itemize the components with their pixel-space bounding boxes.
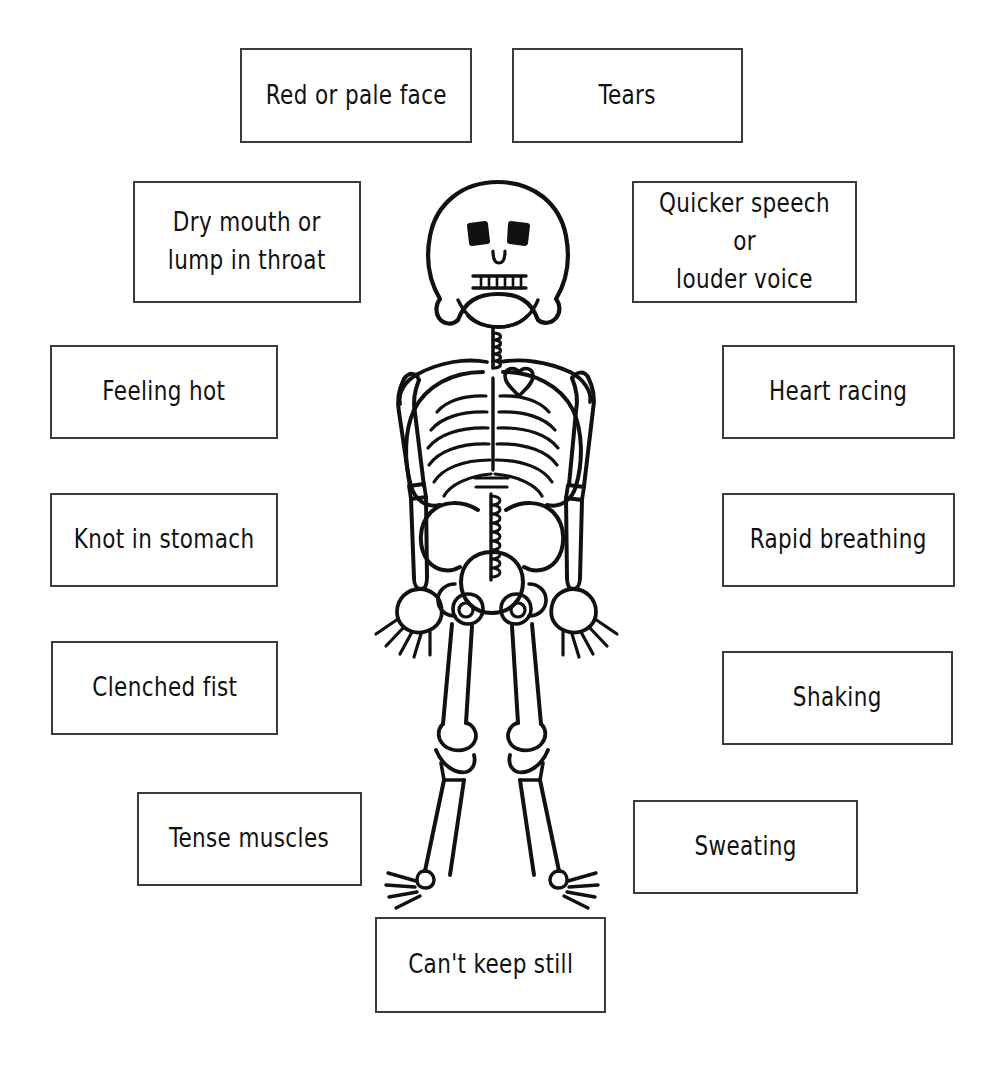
label-text-feeling-hot: Feeling hot xyxy=(95,373,233,411)
label-text-knot-in-stomach: Knot in stomach xyxy=(66,521,261,559)
patella-left xyxy=(436,750,475,772)
tibia-fibula-top-left xyxy=(441,763,464,780)
foot-left-toes xyxy=(386,873,420,908)
skull-right-eye xyxy=(510,224,527,243)
clavicle-right xyxy=(500,360,570,372)
rib-right-4 xyxy=(497,444,557,465)
label-box-red-or-pale-face[interactable]: Red or pale face xyxy=(240,48,472,143)
shoulder-girdle xyxy=(400,360,591,404)
tibia-fibula-top-right xyxy=(520,763,543,780)
label-box-tense-muscles[interactable]: Tense muscles xyxy=(137,792,362,886)
heart-icon xyxy=(505,369,533,396)
skull-group xyxy=(428,182,568,327)
label-box-knot-in-stomach[interactable]: Knot in stomach xyxy=(50,493,278,587)
femur-right-outer xyxy=(532,624,541,724)
ankle-left xyxy=(417,871,434,888)
leg-right xyxy=(508,624,598,908)
humerus-left-inner xyxy=(414,380,424,486)
skull-left-eye xyxy=(470,224,487,243)
humerus-left-outer xyxy=(398,379,410,487)
hand-left-palm xyxy=(397,589,442,633)
forearm-right-inner xyxy=(566,498,567,577)
arm-left xyxy=(376,374,442,657)
label-box-feeling-hot[interactable]: Feeling hot xyxy=(50,345,278,439)
ankle-right xyxy=(550,871,567,888)
forearm-left-outer xyxy=(411,499,414,578)
hand-right-fingers xyxy=(563,619,617,657)
skull-chin xyxy=(468,316,527,327)
femur-heads xyxy=(453,594,531,624)
label-text-sweating: Sweating xyxy=(687,828,804,866)
rib-left-2 xyxy=(431,412,487,430)
rib-left-4 xyxy=(429,444,489,465)
neck-spine xyxy=(493,328,501,368)
rib-right-6 xyxy=(495,474,542,496)
rib-right-2 xyxy=(499,412,555,430)
label-text-dry-mouth-or-lump-in-throat: Dry mouth or lump in throat xyxy=(161,204,334,279)
ribcage-outline-left xyxy=(406,372,483,506)
tibia-right xyxy=(540,780,559,871)
leg-left xyxy=(386,624,476,908)
knee-right xyxy=(508,723,545,750)
label-box-shaking[interactable]: Shaking xyxy=(722,651,953,745)
label-text-tense-muscles: Tense muscles xyxy=(162,820,337,858)
fibula-right xyxy=(520,780,534,875)
humerus-right-outer xyxy=(584,377,594,486)
label-text-cant-keep-still: Can't keep still xyxy=(401,946,581,984)
fibula-left xyxy=(450,780,464,875)
femur-left-inner xyxy=(466,626,472,723)
femur-head-left xyxy=(453,594,483,624)
femur-head-right-inner xyxy=(511,603,525,617)
wrist-right xyxy=(567,577,580,589)
rib-left-6 xyxy=(444,474,491,496)
hip-socket-left xyxy=(438,584,455,616)
tibia-left xyxy=(425,780,444,871)
label-box-rapid-breathing[interactable]: Rapid breathing xyxy=(722,493,955,587)
femur-left-outer xyxy=(443,624,452,724)
rib-right-5 xyxy=(496,460,552,482)
pelvis xyxy=(421,503,563,616)
hip-socket-right xyxy=(529,584,546,616)
scapula-left xyxy=(400,374,418,404)
rib-right-1 xyxy=(500,396,549,412)
femur-head-right xyxy=(501,594,531,624)
arm-right xyxy=(551,373,617,657)
rib-left-5 xyxy=(434,460,490,482)
label-box-sweating[interactable]: Sweating xyxy=(633,800,858,894)
label-text-tears: Tears xyxy=(591,77,663,115)
skull-jaw xyxy=(458,300,538,327)
label-text-clenched-fist: Clenched fist xyxy=(85,669,245,707)
hand-left-fingers xyxy=(376,619,430,657)
diagram-canvas: Red or pale face Tears Dry mouth or lump… xyxy=(0,0,996,1071)
ilium-left xyxy=(421,503,478,570)
label-box-dry-mouth-or-lump-in-throat[interactable]: Dry mouth or lump in throat xyxy=(133,181,361,303)
femur-head-left-inner xyxy=(459,603,473,617)
hand-right-palm xyxy=(551,589,596,633)
label-box-cant-keep-still[interactable]: Can't keep still xyxy=(375,917,606,1013)
label-text-heart-racing: Heart racing xyxy=(762,373,915,411)
rib-left-3 xyxy=(428,428,488,448)
label-box-heart-racing[interactable]: Heart racing xyxy=(722,345,955,439)
wrist-left xyxy=(414,577,427,589)
rib-left-1 xyxy=(437,396,486,412)
rib-right-3 xyxy=(498,428,558,448)
sacrum xyxy=(461,552,523,613)
elbow-right xyxy=(566,485,584,500)
patella-right xyxy=(509,750,548,772)
humerus-right-inner xyxy=(569,378,577,485)
skull-cranium xyxy=(428,182,568,324)
elbow-left xyxy=(409,484,426,499)
label-box-clenched-fist[interactable]: Clenched fist xyxy=(51,641,278,735)
scapula-right xyxy=(570,372,590,402)
label-text-rapid-breathing: Rapid breathing xyxy=(743,521,935,559)
foot-right-toes xyxy=(564,873,598,908)
skull-nose xyxy=(493,251,505,263)
label-box-quicker-speech-or-louder-voice[interactable]: Quicker speech or louder voice xyxy=(632,181,857,303)
label-text-shaking: Shaking xyxy=(786,679,890,717)
label-text-quicker-speech-or-louder-voice: Quicker speech or louder voice xyxy=(643,185,846,298)
knee-left xyxy=(439,723,476,750)
ribcage-outline-right xyxy=(503,372,581,506)
femur-right-inner xyxy=(512,626,518,723)
label-box-tears[interactable]: Tears xyxy=(512,48,743,143)
skull-teeth xyxy=(481,276,521,288)
